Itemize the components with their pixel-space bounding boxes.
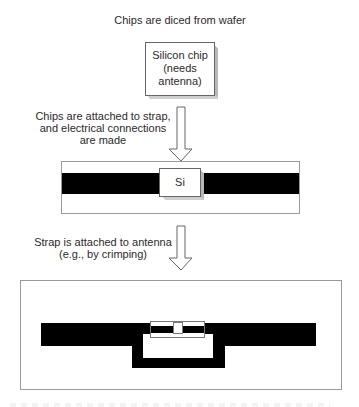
- diagram-title: Chips are diced from wafer: [60, 14, 300, 26]
- step2-line1: Strap is attached to antenna: [28, 236, 178, 248]
- chip-label-line1: Silicon chip: [146, 49, 214, 62]
- step2-label: Strap is attached to antenna (e.g., by c…: [28, 236, 178, 260]
- chip-label-line2: (needs: [146, 62, 214, 75]
- antenna-chip: [173, 322, 183, 334]
- step1-line3: are made: [28, 134, 178, 146]
- step1-line1: Chips are attached to strap,: [28, 110, 178, 122]
- step1-label: Chips are attached to strap, and electri…: [28, 110, 178, 146]
- step1-line2: and electrical connections: [28, 122, 178, 134]
- caption-clipped: [10, 403, 330, 407]
- si-label: Si: [160, 169, 200, 196]
- step2-line2: (e.g., by crimping): [28, 248, 178, 260]
- chip-label-line3: antenna): [146, 75, 214, 88]
- down-arrow-icon: [166, 106, 194, 163]
- down-arrow-icon: [166, 225, 194, 272]
